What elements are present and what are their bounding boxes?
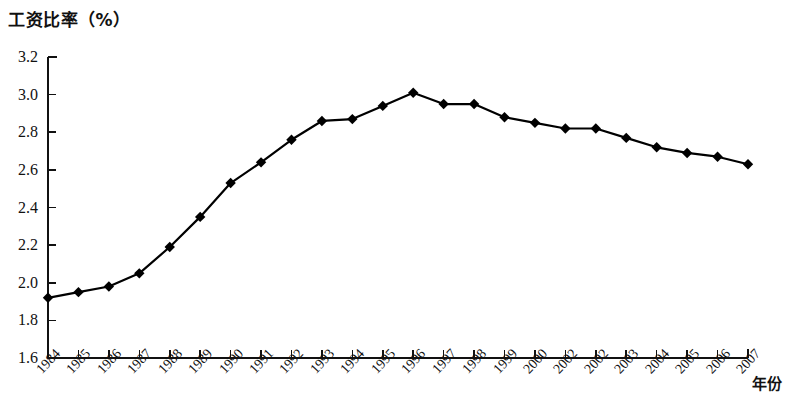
data-point-marker xyxy=(682,148,692,158)
data-point-marker xyxy=(43,293,53,303)
data-point-marker xyxy=(104,281,114,291)
data-point-marker xyxy=(530,118,540,128)
y-tick-label: 1.6 xyxy=(0,350,38,366)
data-point-marker xyxy=(621,133,631,143)
axes xyxy=(48,57,748,358)
data-point-marker xyxy=(560,123,570,133)
data-point-marker xyxy=(317,116,327,126)
y-tick-label: 2.2 xyxy=(0,237,38,253)
data-point-marker xyxy=(378,101,388,111)
x-axis-title: 年份 xyxy=(752,372,782,393)
y-tick-label: 2.8 xyxy=(0,124,38,140)
data-point-marker xyxy=(438,99,448,109)
data-point-marker xyxy=(347,114,357,124)
data-point-marker xyxy=(651,142,661,152)
y-tick-label: 3.2 xyxy=(0,49,38,65)
data-point-marker xyxy=(469,99,479,109)
data-point-marker xyxy=(499,112,509,122)
data-series xyxy=(43,88,753,303)
data-point-marker xyxy=(408,88,418,98)
y-tick-label: 2.0 xyxy=(0,275,38,291)
y-tick-label: 2.4 xyxy=(0,200,38,216)
data-point-marker xyxy=(712,152,722,162)
y-tick-label: 1.8 xyxy=(0,312,38,328)
y-tick-label: 2.6 xyxy=(0,162,38,178)
y-tick-label: 3.0 xyxy=(0,87,38,103)
wage-ratio-line-chart: 工资比率（%） 3.23.02.82.62.42.22.01.81.6 1984… xyxy=(0,0,797,413)
series-line xyxy=(48,93,748,298)
data-point-marker xyxy=(743,159,753,169)
data-point-marker xyxy=(73,287,83,297)
data-point-marker xyxy=(591,123,601,133)
